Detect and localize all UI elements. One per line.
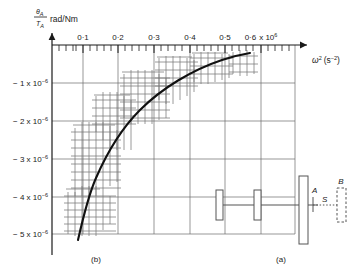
x-tick-label-1: 0·2 (112, 33, 124, 42)
x-tick-label-2: 0·3 (148, 33, 160, 42)
inset-label-b: B (338, 177, 344, 186)
disc-2 (254, 190, 261, 220)
x-tick-label-0: 0·1 (77, 33, 89, 42)
disc-large (299, 176, 308, 244)
disc-1 (216, 190, 223, 220)
inset-label-s: S (322, 195, 328, 204)
x-tick-label-3: 0·4 (184, 33, 196, 42)
y-axis-label-theta-sub: A (39, 11, 44, 17)
x-tick-label-4: 0·5 (219, 33, 231, 42)
figure-svg: θA TA rad/Nm (0, 0, 353, 278)
inset-label-a: A (311, 186, 317, 195)
x-tick-label-5: 0·6x 106 (245, 32, 278, 42)
y-axis-units: rad/Nm (50, 14, 78, 24)
panel-a-label: (a) (276, 255, 286, 264)
y-axis-label-T-sub: A (39, 23, 44, 29)
figure-container: θA TA rad/Nm (0, 0, 353, 278)
panel-b-label: (b) (91, 255, 101, 264)
